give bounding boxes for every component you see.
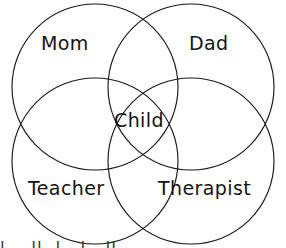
label-mom: Mom <box>41 34 89 53</box>
label-child-intersection: Child <box>114 111 164 130</box>
label-dad: Dad <box>189 34 229 53</box>
label-teacher: Teacher <box>28 179 105 198</box>
venn-diagram-figure: Mom Dad Child Teacher Therapist l .. ll.… <box>0 0 286 248</box>
cut-off-caption-text: l .. ll. l . l . ll <box>0 241 286 248</box>
label-therapist: Therapist <box>158 179 251 198</box>
